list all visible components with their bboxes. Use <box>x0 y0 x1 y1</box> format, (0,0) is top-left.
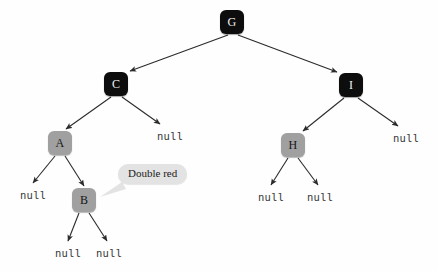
tree-node-b: B <box>72 188 96 212</box>
null-leaf-b-left: null <box>55 247 82 259</box>
tree-node-c: C <box>104 72 128 96</box>
null-leaf-b-right: null <box>96 247 123 259</box>
tree-edge-G-to-C <box>130 35 228 71</box>
tree-edge-A-to-null-a-left <box>33 156 55 183</box>
tree-node-h: H <box>281 133 305 157</box>
tree-edge-H-to-null-h-left <box>271 158 288 185</box>
tree-edge-I-to-null-i-right <box>358 98 398 126</box>
tree-diagram: GCIAHB nullnullnullnullnullnullnull Doub… <box>0 0 438 271</box>
null-leaf-h-right: null <box>307 191 334 203</box>
null-leaf-a-left: null <box>20 189 47 201</box>
callout-tail <box>100 182 126 197</box>
tree-edge-I-to-H <box>303 98 344 131</box>
null-leaf-i-right: null <box>393 132 420 144</box>
tree-node-a: A <box>48 131 72 155</box>
null-leaf-c-right: null <box>157 130 184 142</box>
null-leaf-h-left: null <box>258 191 285 203</box>
tree-edge-B-to-null-b-left <box>68 213 79 241</box>
tree-node-i: I <box>339 73 363 97</box>
tree-edge-G-to-I <box>238 35 337 72</box>
tree-edge-H-to-null-h-right <box>298 158 318 185</box>
tree-node-g: G <box>220 10 244 34</box>
tree-edge-C-to-null-c-right <box>122 97 160 124</box>
tree-edge-B-to-null-b-right <box>89 213 107 241</box>
tree-edge-A-to-B <box>65 156 84 186</box>
double-red-callout: Double red <box>118 164 187 184</box>
tree-edge-C-to-A <box>66 97 111 129</box>
